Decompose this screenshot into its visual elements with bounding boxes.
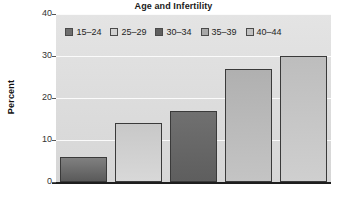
bar-15-24 [60,157,107,182]
y-tick-mark [52,98,56,99]
legend-label: 25–29 [121,27,146,37]
legend-label: 30–34 [166,27,191,37]
legend-swatch-icon [201,28,209,36]
legend-swatch-icon [155,28,163,36]
legend-item[interactable]: 25–29 [110,27,146,37]
y-tick-mark [52,140,56,141]
y-tick-label: 20 [12,92,52,102]
gridline [56,14,331,15]
chart-legend: 15–2425–2930–3435–3940–44 [0,27,347,37]
legend-swatch-icon [246,28,254,36]
bar-chart: Age and Infertility Percent 15–2425–2930… [0,0,347,203]
y-tick-mark [52,14,56,15]
y-tick-mark [52,56,56,57]
y-tick-label: 10 [12,134,52,144]
legend-label: 15–24 [76,27,101,37]
bar-25-29 [115,123,162,182]
legend-item[interactable]: 35–39 [201,27,237,37]
legend-label: 40–44 [257,27,282,37]
legend-item[interactable]: 40–44 [246,27,282,37]
legend-swatch-icon [110,28,118,36]
y-tick-label: 40 [12,8,52,18]
x-axis-line [52,182,331,184]
y-tick-label: 30 [12,50,52,60]
legend-item[interactable]: 15–24 [65,27,101,37]
plot-area [56,14,331,182]
legend-label: 35–39 [212,27,237,37]
legend-swatch-icon [65,28,73,36]
chart-title: Age and Infertility [0,1,347,11]
y-tick-label: 0 [12,176,52,186]
legend-item[interactable]: 30–34 [155,27,191,37]
bar-35-39 [225,69,272,182]
bar-30-34 [170,111,217,182]
y-tick-mark [52,182,56,183]
bar-40-44 [280,56,327,182]
